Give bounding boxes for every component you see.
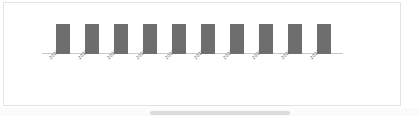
x-axis-tick-labels: 2020年4月2020年5月2020年6月2020年7月2020年8月2020年…	[48, 55, 338, 89]
bar-chart: 2020年4月2020年5月2020年6月2020年7月2020年8月2020年…	[4, 3, 400, 105]
x-tick-label-slot: 2020年8月	[164, 55, 193, 89]
x-tick-label-slot: 2020年5月	[77, 55, 106, 89]
horizontal-scrollbar[interactable]	[0, 108, 419, 116]
x-tick-label-slot: 2020年4月	[48, 55, 77, 89]
scrollbar-thumb[interactable]	[150, 111, 290, 115]
x-tick-label-slot: 2020年12月	[280, 55, 309, 89]
x-tick-label-slot: 2020年6月	[106, 55, 135, 89]
x-tick-label-slot: 2020年9月	[193, 55, 222, 89]
x-tick-label-slot: 2020年7月	[135, 55, 164, 89]
x-tick-label-slot: 2020年10月	[222, 55, 251, 89]
x-tick-label-slot: 2020年11月	[251, 55, 280, 89]
chart-card-panel: 2020年4月2020年5月2020年6月2020年7月2020年8月2020年…	[3, 2, 401, 106]
x-tick-label-slot: 2021年1月	[309, 55, 338, 89]
